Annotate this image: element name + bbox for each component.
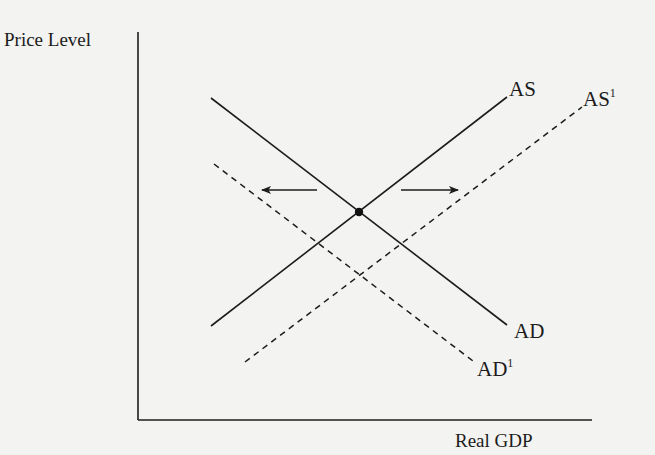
y-axis-label: Price Level (4, 29, 91, 50)
ad-as-diagram: Price Level Real GDP AS AS1 AD AD1 (0, 0, 655, 455)
ad1-label-base: AD (477, 357, 507, 381)
as1-label-superscript: 1 (610, 86, 616, 100)
ad-label: AD (514, 319, 544, 343)
as1-label: AS1 (583, 86, 616, 111)
ad1-label-superscript: 1 (507, 356, 513, 370)
ad1-label: AD1 (477, 356, 513, 381)
as-label: AS (509, 77, 536, 101)
equilibrium-point (355, 208, 363, 216)
x-axis-label: Real GDP (455, 430, 533, 451)
ad1-curve (214, 164, 473, 361)
as1-label-base: AS (583, 87, 610, 111)
